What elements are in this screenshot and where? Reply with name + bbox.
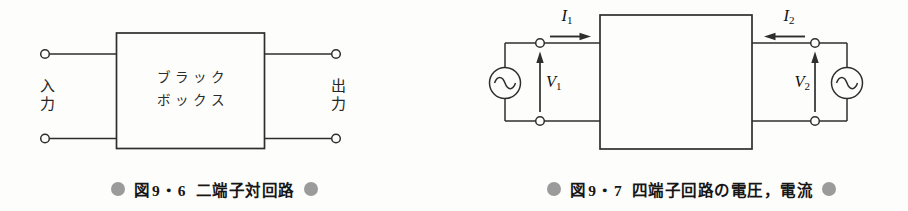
- caption-bullet-icon: [304, 182, 318, 196]
- i1-subscript: 1: [567, 14, 573, 26]
- input-label: 入力: [36, 78, 57, 114]
- caption-fig-word: 図: [134, 182, 151, 199]
- caption-bullet-icon: [547, 182, 561, 196]
- current-label-i2: I2: [774, 6, 804, 26]
- caption-title: 四端子回路の電圧，電流: [632, 182, 814, 199]
- figure-9-6-caption: 図9・6二端子対回路: [64, 178, 364, 200]
- caption-bullet-icon: [822, 182, 836, 196]
- voltage-arrow-v2: [811, 52, 818, 113]
- v2-symbol: V: [794, 72, 804, 91]
- current-arrow-i2: [764, 33, 805, 41]
- caption-title: 二端子対回路: [196, 182, 295, 199]
- output-label: 出力: [327, 78, 348, 114]
- v1-symbol: V: [546, 72, 556, 91]
- terminal-circle: [811, 39, 820, 48]
- current-label-i1: I1: [552, 6, 582, 26]
- terminal-circle: [536, 39, 545, 48]
- terminal-circle: [332, 134, 341, 143]
- terminal-circle: [41, 50, 50, 59]
- textbook-figure-panel: 入力 出力 ブラック ボックス 図9・6二端子対回路 I1 I2 V1 V2 図…: [0, 0, 908, 211]
- black-box-label: ブラック ボックス: [116, 66, 264, 112]
- caption-text: 図9・6二端子対回路: [134, 178, 295, 200]
- i2-subscript: 2: [789, 14, 795, 26]
- terminal-circle: [332, 50, 341, 59]
- black-box-label-line2: ボックス: [121, 89, 264, 112]
- black-box-label-line1: ブラック: [121, 66, 264, 89]
- current-arrow-i1: [550, 33, 591, 41]
- caption-fig-number: 9・7: [588, 182, 623, 199]
- ac-source-icon: [490, 68, 521, 99]
- four-terminal-box-outline: [600, 15, 752, 149]
- v1-subscript: 1: [556, 80, 562, 92]
- terminal-circle: [41, 134, 50, 143]
- caption-text: 図9・7四端子回路の電圧，電流: [570, 178, 814, 200]
- terminal-circle: [811, 117, 820, 126]
- caption-fig-word: 図: [570, 182, 587, 199]
- voltage-arrow-v1: [536, 52, 543, 113]
- figure-9-7-caption: 図9・7四端子回路の電圧，電流: [516, 178, 867, 200]
- terminal-circle: [536, 117, 545, 126]
- v2-subscript: 2: [805, 80, 811, 92]
- caption-bullet-icon: [111, 182, 125, 196]
- caption-fig-number: 9・6: [152, 182, 187, 199]
- voltage-label-v1: V1: [546, 72, 574, 92]
- voltage-label-v2: V2: [782, 72, 810, 92]
- ac-source-icon: [832, 68, 863, 99]
